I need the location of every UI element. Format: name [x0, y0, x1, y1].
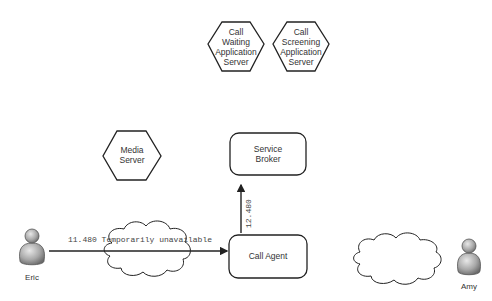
- actor-eric[interactable]: Eric: [20, 229, 45, 282]
- person-icon: [457, 239, 480, 275]
- node-label-line: Server: [223, 57, 248, 67]
- call-agent-node[interactable]: Call Agent: [229, 235, 307, 278]
- diagram-canvas: Call Waiting Application Server Call Scr…: [0, 0, 492, 301]
- edge-call-agent-to-service-broker[interactable]: 12.480: [241, 185, 253, 233]
- node-label-line: Call: [229, 27, 244, 37]
- node-label-line: Screening: [282, 37, 321, 47]
- person-icon: [20, 229, 45, 265]
- node-label-line: Application: [280, 47, 322, 57]
- node-label-line: Application: [215, 47, 257, 57]
- node-label-line: Waiting: [222, 37, 250, 47]
- node-label-line: Service: [254, 144, 283, 154]
- node-label-line: Media: [120, 145, 143, 155]
- actor-label: Amy: [461, 282, 477, 291]
- call-screening-app-server-node[interactable]: Call Screening Application Server: [273, 22, 329, 71]
- node-label-line: Broker: [255, 154, 280, 164]
- edge-label: 12.480: [244, 199, 253, 228]
- node-label-line: Call Agent: [249, 251, 288, 261]
- node-label-line: Server: [288, 57, 313, 67]
- media-server-node[interactable]: Media Server: [103, 131, 161, 180]
- left-network-cloud-icon: [104, 221, 190, 276]
- service-broker-node[interactable]: Service Broker: [230, 133, 306, 175]
- node-label-line: Call: [294, 27, 309, 37]
- actor-label: Eric: [25, 273, 39, 282]
- node-label-line: Server: [119, 155, 144, 165]
- right-network-cloud-icon: [354, 233, 441, 284]
- call-waiting-app-server-node[interactable]: Call Waiting Application Server: [208, 22, 264, 71]
- actor-amy[interactable]: Amy: [457, 239, 480, 291]
- edge-label: 11.480 Temporarily unavailable: [68, 235, 212, 244]
